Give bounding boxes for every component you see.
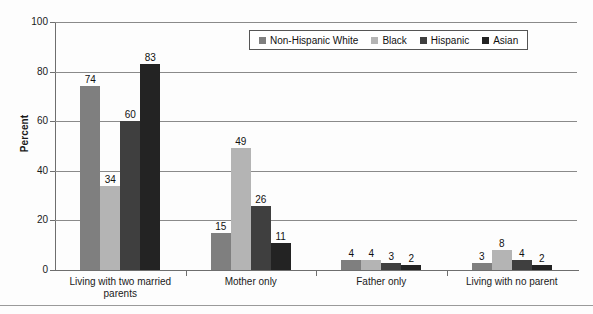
legend-label: Black: [382, 35, 406, 46]
y-tick-label: 0: [14, 264, 48, 275]
y-axis-title: Percent: [19, 94, 30, 174]
legend-swatch-icon: [420, 37, 427, 44]
category-label-line: parents: [45, 288, 195, 300]
bar-value-label: 83: [135, 52, 165, 63]
x-axis-category-label: Mother only: [176, 276, 326, 288]
x-axis-category-label: Father only: [306, 276, 456, 288]
legend-swatch-icon: [259, 37, 266, 44]
bar-chart: Percent 020406080100 7434608315492611443…: [0, 0, 593, 314]
category-label-line: Living with two married: [45, 276, 195, 288]
bar[interactable]: [532, 265, 552, 270]
bar-value-label: 11: [266, 231, 296, 242]
x-axis-line: [55, 270, 579, 271]
category-label-line: Living with no parent: [437, 276, 587, 288]
y-tick-label: 40: [14, 165, 48, 176]
bar-group: 74346083: [80, 22, 160, 270]
category-label-line: Mother only: [176, 276, 326, 288]
bar-value-label: 2: [396, 253, 426, 264]
bar-group: 3842: [472, 22, 552, 270]
bar-value-label: 49: [226, 136, 256, 147]
x-axis-category-label: Living with two marriedparents: [45, 276, 195, 300]
legend-swatch-icon: [482, 37, 489, 44]
legend-item[interactable]: Asian: [482, 35, 518, 46]
x-axis-category-label: Living with no parent: [437, 276, 587, 288]
bar-value-label: 26: [246, 194, 276, 205]
bar[interactable]: [472, 263, 492, 270]
category-separator-tick: [447, 271, 448, 276]
bar-value-label: 2: [527, 253, 557, 264]
legend-item[interactable]: Non-Hispanic White: [259, 35, 358, 46]
bar[interactable]: [140, 64, 160, 270]
bar[interactable]: [120, 121, 140, 270]
bar[interactable]: [100, 186, 120, 270]
category-label-line: Father only: [306, 276, 456, 288]
bar[interactable]: [271, 243, 291, 270]
y-tick-label: 60: [14, 115, 48, 126]
bar[interactable]: [361, 260, 381, 270]
y-tick-label: 80: [14, 66, 48, 77]
chart-legend: Non-Hispanic WhiteBlackHispanicAsian: [249, 30, 528, 50]
legend-swatch-icon: [371, 37, 378, 44]
legend-label: Hispanic: [431, 35, 469, 46]
legend-label: Asian: [493, 35, 518, 46]
category-separator-tick: [316, 271, 317, 276]
bar[interactable]: [211, 233, 231, 270]
category-separator-tick: [186, 271, 187, 276]
bar[interactable]: [341, 260, 361, 270]
legend-item[interactable]: Black: [371, 35, 406, 46]
plot-area: 743460831549261144323842: [55, 22, 577, 270]
y-tick-label: 20: [14, 214, 48, 225]
y-tick-mark: [50, 270, 55, 271]
bar-value-label: 74: [75, 74, 105, 85]
y-tick-label: 100: [14, 16, 48, 27]
legend-label: Non-Hispanic White: [270, 35, 358, 46]
bar-group: 4432: [341, 22, 421, 270]
bar[interactable]: [401, 265, 421, 270]
bar[interactable]: [231, 148, 251, 270]
bottom-rule: [0, 305, 593, 306]
bar-group: 15492611: [211, 22, 291, 270]
legend-item[interactable]: Hispanic: [420, 35, 469, 46]
